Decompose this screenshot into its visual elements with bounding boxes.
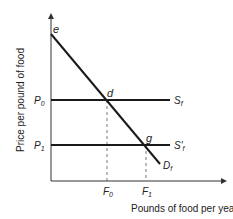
- point-g-label: g: [146, 132, 153, 144]
- chart: Price per pound of food Pounds of food p…: [0, 0, 233, 219]
- x-axis-label: Pounds of food per year: [131, 203, 233, 214]
- label-sf: Sf: [174, 95, 184, 107]
- label-sf-prime: S'f: [174, 140, 186, 152]
- point-e-label: e: [53, 23, 59, 35]
- tick-f0: F0: [103, 186, 113, 198]
- label-df: Df: [163, 160, 173, 172]
- tick-p0: P0: [34, 95, 45, 107]
- tick-p1: P1: [34, 140, 45, 152]
- y-axis-label: Price per pound of food: [15, 48, 26, 152]
- tick-f1: F1: [142, 186, 152, 198]
- point-d-label: d: [107, 87, 114, 99]
